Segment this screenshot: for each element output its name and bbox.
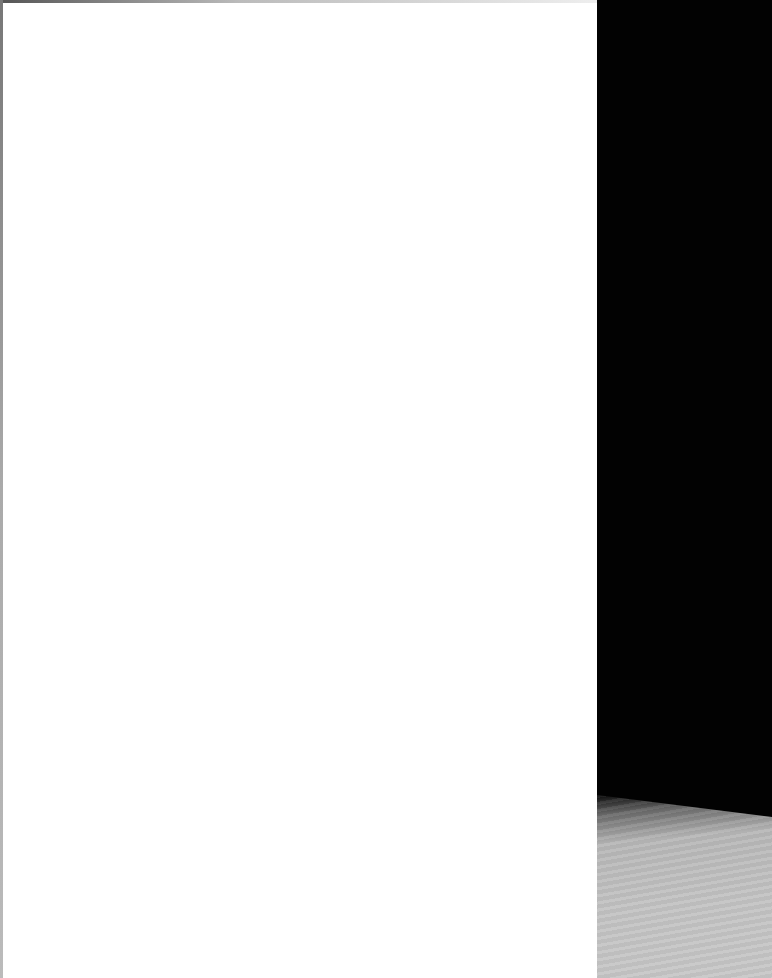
page-left-edge <box>0 0 3 978</box>
blank-page <box>0 0 597 978</box>
surface-texture <box>597 795 772 978</box>
table-surface <box>597 795 772 978</box>
page-content <box>20 20 577 958</box>
page-top-edge <box>0 0 597 3</box>
